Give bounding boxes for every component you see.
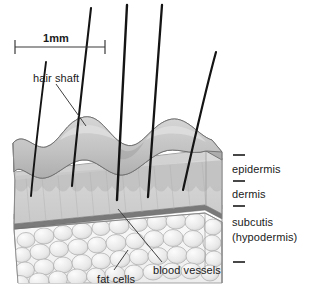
scale-bar-label: 1mm: [43, 32, 69, 44]
hypodermis-label: (hypodermis): [232, 231, 297, 243]
subcutis-label: subcutis: [232, 216, 273, 228]
hair-shaft-label: hair shaft: [33, 72, 79, 84]
fat-cells-label: fat cells: [97, 273, 135, 285]
skin-cross-section-diagram: 1mm hair shaft epidermis dermis subcutis…: [0, 0, 310, 300]
diagram-canvas: [0, 0, 310, 300]
dermis-label: dermis: [232, 188, 266, 200]
epidermis-label: epidermis: [232, 163, 281, 175]
blood-vessels-label: blood vessels: [153, 264, 221, 276]
